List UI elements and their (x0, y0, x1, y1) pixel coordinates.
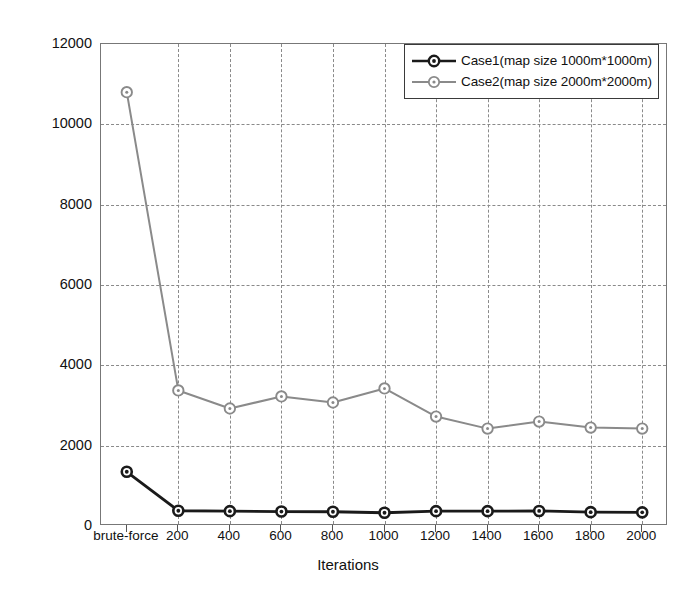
data-point-center (125, 470, 129, 474)
x-tick-mark (332, 525, 333, 532)
series-case2 (122, 87, 648, 434)
data-point-center (125, 91, 128, 94)
data-point-center (538, 420, 541, 423)
y-tick-label: 0 (0, 517, 92, 533)
data-point-center (641, 427, 644, 430)
data-point-center (434, 509, 438, 513)
plot-area (100, 43, 667, 525)
series-line (127, 92, 642, 428)
y-tick-label: 8000 (0, 196, 92, 212)
data-point-center (383, 387, 386, 390)
legend-marker-case1 (411, 52, 457, 70)
data-point-center (383, 511, 387, 515)
x-tick-mark (384, 525, 385, 532)
x-tick-mark (538, 525, 539, 532)
data-point-center (589, 510, 593, 514)
chart-figure: Average cost 020004000600080001000012000… (0, 0, 696, 589)
data-point-center (228, 407, 231, 410)
legend-marker-case2 (411, 73, 457, 91)
data-point-center (177, 389, 180, 392)
data-series-layer (101, 44, 668, 526)
data-point-center (331, 510, 335, 514)
x-axis-title: Iterations (0, 556, 696, 573)
x-tick-mark (177, 525, 178, 532)
y-tick-label: 4000 (0, 356, 92, 372)
x-tick-mark (487, 525, 488, 532)
data-point-center (640, 510, 644, 514)
data-point-center (589, 426, 592, 429)
legend-label-case1: Case1(map size 1000m*1000m) (461, 53, 652, 68)
x-tick-mark (435, 525, 436, 532)
data-point-center (486, 509, 490, 513)
legend-label-case2: Case2(map size 2000m*2000m) (461, 74, 652, 89)
data-point-center (486, 427, 489, 430)
y-tick-label: 10000 (0, 115, 92, 131)
data-point-center (435, 415, 438, 418)
chart-legend: Case1(map size 1000m*1000m) Case2(map si… (404, 44, 659, 99)
y-tick-label: 6000 (0, 276, 92, 292)
data-point-center (228, 509, 232, 513)
series-case1 (122, 467, 647, 518)
x-tick-mark (641, 525, 642, 532)
legend-entry-case2: Case2(map size 2000m*2000m) (411, 71, 652, 92)
x-tick-mark (590, 525, 591, 532)
legend-entry-case1: Case1(map size 1000m*1000m) (411, 50, 652, 71)
data-point-center (537, 509, 541, 513)
x-tick-mark (229, 525, 230, 532)
y-tick-label: 2000 (0, 437, 92, 453)
data-point-center (331, 401, 334, 404)
data-point-center (176, 509, 180, 513)
y-tick-label: 12000 (0, 35, 92, 51)
data-point-center (280, 395, 283, 398)
x-tick-mark (126, 525, 127, 532)
x-tick-mark (280, 525, 281, 532)
data-point-center (280, 510, 284, 514)
